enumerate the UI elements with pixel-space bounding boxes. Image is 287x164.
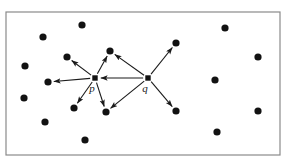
arrow-edge [72,60,91,75]
arrow-edge [111,81,145,108]
scatter-point [211,76,218,83]
scatter-point [44,78,51,85]
scatter-point [106,47,113,54]
scatter-point [172,107,179,114]
scatter-point [213,128,220,135]
scatter-point [20,94,27,101]
scatter-point [102,108,109,115]
scatter-point [221,24,228,31]
label-q: q [142,82,148,94]
scatter-point [63,53,70,60]
hub-point-q [145,75,150,80]
diagram-canvas: pq [0,0,287,164]
scatter-point [254,107,261,114]
arrow-edges-group [54,48,173,109]
scatter-point [254,53,261,60]
scatter-point [41,118,48,125]
arrow-edge [151,48,172,75]
scatter-points-group [20,21,261,143]
scatter-point [70,104,77,111]
scatter-point [172,39,179,46]
arrow-edge [96,83,104,107]
scatter-point [21,62,28,69]
scatter-point [39,33,46,40]
figure-container: pq [0,0,287,164]
arrow-edge [115,54,144,75]
scatter-point [78,21,85,28]
arrow-edge [97,56,107,74]
arrow-edge [151,82,172,107]
label-p: p [88,82,95,94]
scatter-point [81,136,88,143]
arrow-edge [54,78,90,81]
hub-point-p [92,75,97,80]
